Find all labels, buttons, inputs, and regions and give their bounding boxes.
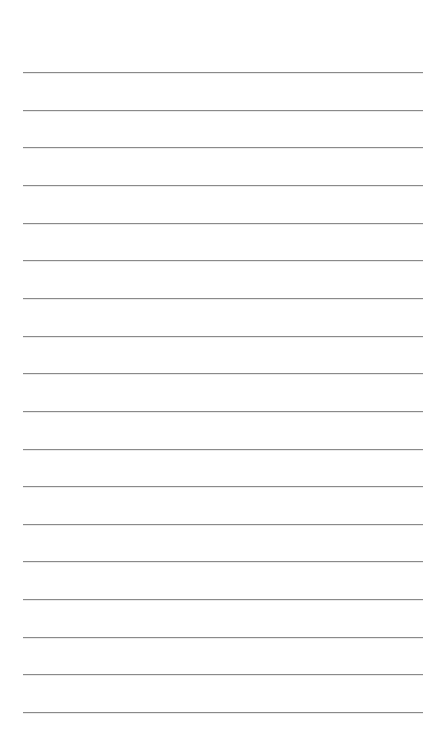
ruled-line bbox=[23, 486, 423, 487]
lined-paper-page bbox=[0, 0, 442, 752]
ruled-line bbox=[23, 147, 423, 148]
ruled-line bbox=[23, 712, 423, 713]
ruled-line bbox=[23, 449, 423, 450]
ruled-line bbox=[23, 524, 423, 525]
ruled-line bbox=[23, 223, 423, 224]
ruled-line bbox=[23, 260, 423, 261]
ruled-line bbox=[23, 298, 423, 299]
ruled-line bbox=[23, 185, 423, 186]
ruled-line bbox=[23, 561, 423, 562]
ruled-line bbox=[23, 637, 423, 638]
ruled-line bbox=[23, 110, 423, 111]
ruled-line bbox=[23, 72, 423, 73]
ruled-line bbox=[23, 674, 423, 675]
ruled-line bbox=[23, 411, 423, 412]
ruled-line bbox=[23, 599, 423, 600]
ruled-line bbox=[23, 336, 423, 337]
ruled-line bbox=[23, 373, 423, 374]
